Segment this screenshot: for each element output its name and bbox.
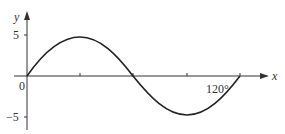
y-tick-label-neg5: −5	[6, 110, 19, 124]
x-tick-label-120: 120°	[206, 82, 229, 96]
y-tick-label-5: 5	[13, 28, 19, 42]
x-axis-label: x	[271, 69, 278, 83]
y-axis-arrow-icon	[24, 11, 30, 20]
origin-label: 0	[19, 79, 25, 93]
chart: y 5 −5 0 120° x	[0, 0, 285, 134]
y-axis-label: y	[13, 10, 20, 24]
x-axis-arrow-icon	[260, 73, 269, 79]
